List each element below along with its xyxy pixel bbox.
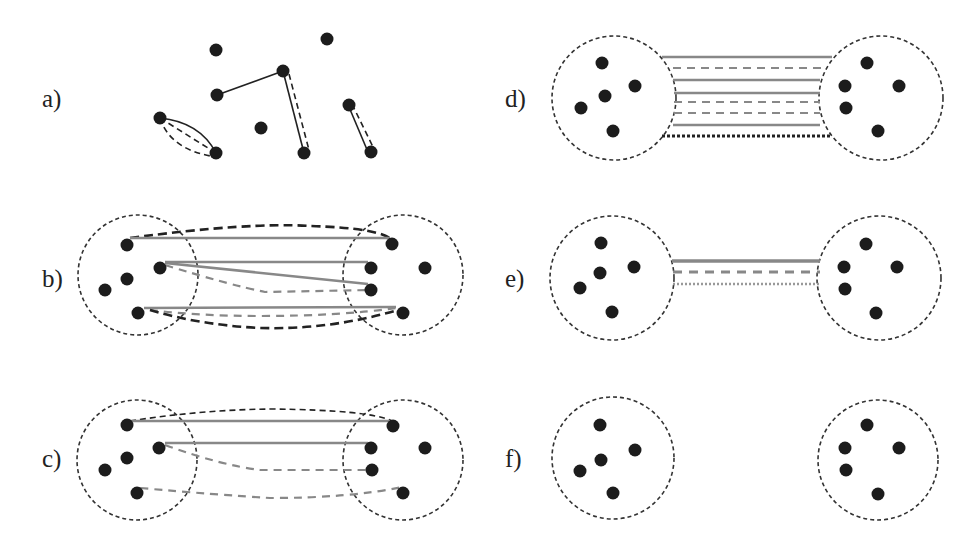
node (121, 239, 134, 252)
node (131, 487, 144, 500)
node (599, 90, 612, 103)
node (132, 307, 145, 320)
node (595, 454, 608, 467)
node (839, 283, 852, 296)
node (606, 306, 619, 319)
node (893, 80, 906, 93)
node (891, 261, 904, 274)
diagram-canvas: a) b) (0, 0, 980, 544)
edge (144, 307, 396, 308)
cluster-right (818, 400, 938, 520)
cluster-left (550, 216, 674, 340)
edge (160, 118, 216, 153)
panel-label-c: c) (42, 445, 61, 473)
node (210, 44, 223, 57)
node (594, 267, 607, 280)
node (99, 284, 112, 297)
node (861, 419, 874, 432)
panel-label-b: b) (42, 265, 63, 293)
node (121, 452, 134, 465)
node (870, 307, 883, 320)
node (839, 80, 852, 93)
node (121, 419, 134, 432)
node (419, 262, 432, 275)
node (838, 261, 851, 274)
cluster-left (552, 397, 674, 519)
node (574, 282, 587, 295)
cluster-left (77, 400, 197, 520)
node (872, 125, 885, 138)
cluster-right (343, 400, 463, 520)
panel-c: c) (42, 400, 463, 520)
node (154, 112, 167, 125)
node (365, 284, 378, 297)
node (893, 442, 906, 455)
panel-label-f: f) (505, 445, 522, 473)
node (365, 146, 378, 159)
edge (283, 71, 304, 153)
node (321, 33, 334, 46)
node (397, 307, 410, 320)
panel-b: b) (42, 215, 463, 335)
node (629, 80, 642, 93)
node (839, 442, 852, 455)
node (255, 122, 268, 135)
node (99, 464, 112, 477)
node (629, 444, 642, 457)
node (628, 261, 641, 274)
node (387, 420, 400, 433)
panel-label-a: a) (42, 85, 61, 113)
panel-label-d: d) (505, 85, 526, 113)
cluster-left (552, 36, 676, 160)
panel-f: f) (505, 397, 938, 520)
node (397, 487, 410, 500)
node (153, 442, 166, 455)
node (607, 125, 620, 138)
node (574, 465, 587, 478)
node (872, 488, 885, 501)
edge (140, 487, 402, 498)
node (840, 102, 853, 115)
node (595, 237, 608, 250)
node (860, 238, 873, 251)
node (607, 487, 620, 500)
node (575, 102, 588, 115)
node (154, 262, 167, 275)
node (343, 99, 356, 112)
cluster-right (819, 36, 943, 160)
edge (217, 71, 283, 95)
edge (349, 107, 368, 152)
node (210, 147, 223, 160)
node (365, 262, 378, 275)
node (840, 464, 853, 477)
panel-a: a) (42, 33, 378, 160)
node (121, 273, 134, 286)
node (596, 57, 609, 70)
panel-e: e) (505, 216, 941, 340)
panel-d: d) (505, 36, 943, 160)
edge (130, 409, 392, 421)
node (298, 147, 311, 160)
node (211, 89, 224, 102)
panel-label-e: e) (505, 265, 524, 293)
node (861, 57, 874, 70)
node (594, 419, 607, 432)
node (386, 238, 399, 251)
node (366, 464, 379, 477)
edge (165, 265, 370, 292)
node (365, 442, 378, 455)
edge (352, 104, 374, 149)
node (277, 65, 290, 78)
node (419, 442, 432, 455)
cluster-right (817, 216, 941, 340)
edge (289, 74, 309, 150)
